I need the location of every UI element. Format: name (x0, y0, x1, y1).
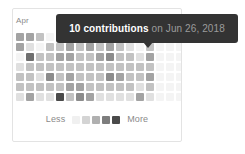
contribution-cell[interactable] (106, 63, 114, 71)
contribution-cell[interactable] (156, 43, 164, 51)
contribution-cell[interactable] (76, 63, 84, 71)
contribution-cell[interactable] (36, 63, 44, 71)
contribution-cell[interactable] (176, 73, 182, 81)
contribution-cell[interactable] (66, 93, 74, 101)
contribution-cell[interactable] (16, 93, 24, 101)
contribution-cell[interactable] (176, 83, 182, 91)
contribution-cell[interactable] (136, 63, 144, 71)
contribution-cell[interactable] (176, 43, 182, 51)
contribution-cell[interactable] (126, 53, 134, 61)
contribution-cell[interactable] (26, 93, 34, 101)
contribution-cell[interactable] (46, 93, 54, 101)
contribution-cell[interactable] (126, 43, 134, 51)
contribution-cell[interactable] (86, 53, 94, 61)
contribution-cell[interactable] (166, 83, 174, 91)
contribution-cell[interactable] (116, 83, 124, 91)
contribution-cell[interactable] (116, 73, 124, 81)
contribution-cell[interactable] (96, 53, 104, 61)
contribution-cell[interactable] (36, 73, 44, 81)
contribution-cell[interactable] (46, 73, 54, 81)
contribution-cell[interactable] (56, 73, 64, 81)
contribution-cell[interactable] (46, 63, 54, 71)
contribution-cell[interactable] (66, 73, 74, 81)
contribution-cell[interactable] (36, 93, 44, 101)
contribution-cell[interactable] (46, 53, 54, 61)
contribution-cell[interactable] (26, 83, 34, 91)
contribution-cell[interactable] (146, 53, 154, 61)
contribution-cell[interactable] (176, 53, 182, 61)
contribution-cell[interactable] (36, 83, 44, 91)
contribution-cell[interactable] (126, 83, 134, 91)
contribution-cell[interactable] (86, 63, 94, 71)
contribution-cell[interactable] (36, 33, 44, 41)
contribution-cell[interactable] (166, 53, 174, 61)
contribution-cell[interactable] (66, 43, 74, 51)
contribution-cell[interactable] (106, 53, 114, 61)
contribution-cell[interactable] (56, 43, 64, 51)
contribution-grid[interactable] (16, 33, 182, 102)
contribution-cell[interactable] (126, 73, 134, 81)
contribution-cell[interactable] (166, 93, 174, 101)
contribution-cell[interactable] (116, 53, 124, 61)
contribution-cell[interactable] (66, 53, 74, 61)
contribution-cell[interactable] (16, 43, 24, 51)
contribution-cell[interactable] (26, 43, 34, 51)
contribution-cell[interactable] (156, 83, 164, 91)
contribution-cell[interactable] (96, 73, 104, 81)
contribution-cell[interactable] (166, 63, 174, 71)
contribution-cell[interactable] (146, 93, 154, 101)
contribution-cell[interactable] (86, 43, 94, 51)
contribution-cell[interactable] (76, 73, 84, 81)
contribution-cell[interactable] (96, 63, 104, 71)
contribution-cell[interactable] (36, 43, 44, 51)
contribution-cell[interactable] (26, 53, 34, 61)
contribution-cell[interactable] (76, 53, 84, 61)
contribution-cell[interactable] (56, 63, 64, 71)
contribution-cell[interactable] (96, 83, 104, 91)
contribution-cell[interactable] (146, 63, 154, 71)
contribution-cell[interactable] (16, 63, 24, 71)
contribution-cell[interactable] (166, 43, 174, 51)
contribution-cell[interactable] (46, 83, 54, 91)
contribution-cell[interactable] (46, 43, 54, 51)
contribution-cell[interactable] (156, 93, 164, 101)
contribution-cell[interactable] (86, 83, 94, 91)
contribution-cell[interactable] (86, 73, 94, 81)
contribution-cell[interactable] (96, 43, 104, 51)
contribution-cell[interactable] (106, 93, 114, 101)
contribution-cell[interactable] (136, 53, 144, 61)
contribution-cell[interactable] (106, 83, 114, 91)
contribution-cell[interactable] (116, 63, 124, 71)
contribution-cell[interactable] (26, 73, 34, 81)
contribution-cell[interactable] (66, 63, 74, 71)
contribution-cell[interactable] (116, 43, 124, 51)
contribution-cell[interactable] (56, 53, 64, 61)
contribution-cell[interactable] (106, 43, 114, 51)
contribution-cell[interactable] (126, 63, 134, 71)
contribution-cell[interactable] (16, 53, 24, 61)
contribution-cell[interactable] (16, 83, 24, 91)
contribution-cell[interactable] (136, 83, 144, 91)
contribution-cell[interactable] (96, 93, 104, 101)
contribution-cell[interactable] (156, 53, 164, 61)
contribution-cell[interactable] (176, 93, 182, 101)
contribution-cell[interactable] (176, 63, 182, 71)
contribution-cell[interactable] (56, 93, 64, 101)
contribution-cell[interactable] (116, 93, 124, 101)
contribution-cell[interactable] (16, 33, 24, 41)
contribution-cell[interactable] (86, 93, 94, 101)
contribution-cell[interactable] (106, 73, 114, 81)
contribution-cell[interactable] (26, 63, 34, 71)
contribution-cell[interactable] (76, 93, 84, 101)
contribution-cell[interactable] (26, 33, 34, 41)
contribution-cell[interactable] (156, 73, 164, 81)
contribution-cell[interactable] (146, 73, 154, 81)
contribution-cell[interactable] (36, 53, 44, 61)
contribution-cell[interactable] (56, 83, 64, 91)
contribution-cell[interactable] (156, 63, 164, 71)
contribution-cell[interactable] (136, 73, 144, 81)
contribution-cell[interactable] (166, 73, 174, 81)
contribution-cell[interactable] (76, 43, 84, 51)
contribution-cell[interactable] (16, 73, 24, 81)
contribution-cell[interactable] (76, 83, 84, 91)
